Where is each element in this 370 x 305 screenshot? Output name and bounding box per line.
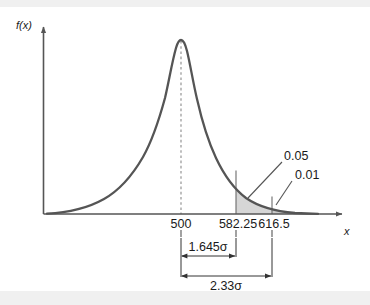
dim-label-1645-sigma: 1.645σ bbox=[189, 240, 228, 254]
tick-label-616-5: 616.5 bbox=[258, 217, 289, 231]
figure-container: f(x) x 500 582.25 616.5 0.05 0.01 1.645σ… bbox=[0, 0, 370, 305]
callout-leader-0-01 bbox=[276, 181, 292, 205]
tick-label-582-25: 582.25 bbox=[219, 217, 257, 231]
x-axis-label: x bbox=[343, 225, 350, 237]
normal-distribution-chart: f(x) x 500 582.25 616.5 0.05 0.01 1.645σ… bbox=[0, 0, 370, 305]
tick-label-500: 500 bbox=[171, 217, 192, 231]
dim-label-233-sigma: 2.33σ bbox=[210, 279, 242, 293]
density-curve bbox=[47, 40, 318, 214]
callout-leader-0-05 bbox=[248, 162, 282, 198]
shaded-regions-group bbox=[236, 30, 303, 214]
alpha-0-01-shaded-region bbox=[272, 30, 303, 214]
alpha-0-05-shaded-region bbox=[236, 30, 303, 214]
callout-label-0-05: 0.05 bbox=[284, 149, 308, 163]
callout-label-0-01: 0.01 bbox=[295, 168, 319, 182]
y-axis-label: f(x) bbox=[16, 19, 32, 31]
